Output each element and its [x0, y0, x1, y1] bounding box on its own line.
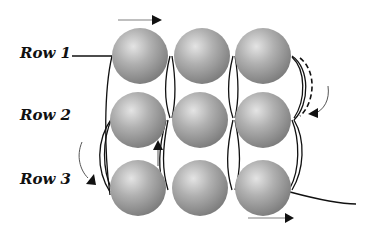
- left-curved-arrow-icon: [79, 142, 96, 185]
- bead-diagram: [0, 0, 383, 238]
- beads: [110, 28, 291, 216]
- top-direction-arrow-icon: [118, 15, 162, 25]
